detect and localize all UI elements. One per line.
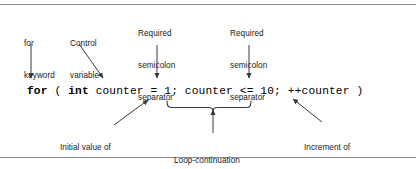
for-statement-code: for ( int counter = 1; counter <= 10; ++… [27,84,363,99]
label-initial-value: Initial value of control variable [60,122,116,169]
code-token-for: for [27,85,48,97]
for-loop-annotated-diagram: for keyword Control variable Required se… [0,0,416,169]
label-control-variable-line-2: variable [70,71,99,82]
label-required-semicolon-separator-1-line-2: semicolon [138,61,175,72]
label-required-semicolon-separator-2-line-1: Required [230,29,267,40]
label-control-variable-line-1: Control [70,39,99,50]
label-required-semicolon-separator-1: Required semicolon separator [138,8,175,125]
figure-top-rule [0,4,416,5]
label-loop-continuation-condition-line-1: Loop-continuation [174,156,240,167]
label-initial-value-line-1: Initial value of [60,143,116,154]
label-increment-line-1: Increment of [304,143,360,154]
label-for-keyword-line-2: keyword [24,71,55,82]
label-increment: Increment of control variable [304,122,360,169]
code-token-rest: counter = 1; counter <= 10; ++counter ) [89,85,364,97]
label-required-semicolon-separator-2-line-2: semicolon [230,61,267,72]
label-loop-continuation-condition: Loop-continuation condition [174,135,240,169]
label-for-keyword-line-1: for [24,39,55,50]
code-token-open-paren: ( [48,85,69,97]
label-required-semicolon-separator-2: Required semicolon separator [230,8,267,125]
label-required-semicolon-separator-1-line-1: Required [138,29,175,40]
code-token-int: int [68,85,89,97]
arrow-increment [293,99,322,122]
